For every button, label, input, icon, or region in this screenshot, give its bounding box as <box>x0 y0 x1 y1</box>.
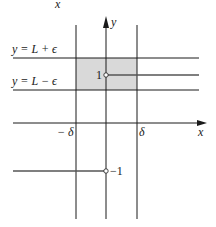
open-point-upper <box>104 73 108 77</box>
x-axis-label: x <box>197 125 204 139</box>
top-fragment-label: x <box>54 0 61 11</box>
band-upper-label: y = L + ϵ <box>11 42 58 56</box>
upper-value-label: 1 <box>96 68 102 82</box>
lower-value-label: −1 <box>110 164 123 178</box>
y-axis-arrow-icon <box>103 16 109 28</box>
y-axis-label: y <box>110 15 117 29</box>
band-lower-label: y = L − ϵ <box>11 74 58 88</box>
open-point-lower <box>104 169 108 173</box>
neg-delta-tick-label: − δ <box>57 125 74 139</box>
pos-delta-tick-label: δ <box>139 125 145 139</box>
epsilon-delta-diagram: x y x y = L + ϵ y = L − ϵ − δ δ 1 −1 <box>0 0 216 227</box>
